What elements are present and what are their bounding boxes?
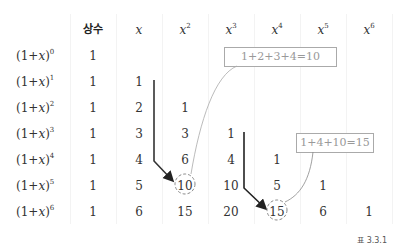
table-cell: 1 [70, 49, 116, 63]
table-caption: 표 3.3.1 [357, 234, 387, 245]
row-label: (1+x)5 [16, 179, 76, 193]
table-cell: 1 [70, 75, 116, 89]
column-header: x5 [300, 23, 346, 37]
table-cell: 3 [116, 127, 162, 141]
table-cell: 5 [254, 179, 300, 193]
column-header: x [116, 23, 162, 37]
row-label: (1+x)2 [16, 101, 76, 115]
table-cell: 1 [300, 179, 346, 193]
column-divider [392, 14, 393, 224]
column-header: x2 [162, 23, 208, 37]
table-cell: 5 [116, 179, 162, 193]
table-cell: 4 [208, 153, 254, 167]
row-label: (1+x)4 [16, 153, 76, 167]
column-header: x4 [254, 23, 300, 37]
table-cell: 20 [208, 205, 254, 219]
table-cell: 1 [254, 153, 300, 167]
table-cell: 10 [208, 179, 254, 193]
table-cell: 1 [208, 127, 254, 141]
table-cell: 1 [70, 153, 116, 167]
row-label: (1+x)3 [16, 127, 76, 141]
table-cell: 6 [300, 205, 346, 219]
table-cell: 2 [116, 101, 162, 115]
table-cell: 1 [346, 205, 392, 219]
table-cell: 10 [162, 179, 208, 193]
row-label: (1+x)6 [16, 205, 76, 219]
column-header: 상수 [70, 23, 116, 37]
column-divider [346, 14, 347, 224]
row-label: (1+x)0 [16, 49, 76, 63]
table-cell: 6 [116, 205, 162, 219]
sum-annotation-box-1: 1+2+3+4=10 [224, 47, 337, 67]
table-cell: 15 [162, 205, 208, 219]
table-cell: 1 [70, 179, 116, 193]
table-cell: 1 [70, 127, 116, 141]
table-cell: 1 [70, 101, 116, 115]
column-header: x6 [346, 23, 392, 37]
table-cell: 1 [162, 101, 208, 115]
table-cell: 6 [162, 153, 208, 167]
table-cell: 1 [116, 75, 162, 89]
table-cell: 3 [162, 127, 208, 141]
sum-annotation-box-2: 1+4+10=15 [296, 133, 374, 153]
table-cell: 15 [254, 205, 300, 219]
table-cell: 1 [70, 205, 116, 219]
table-cell: 4 [116, 153, 162, 167]
row-label: (1+x)1 [16, 75, 76, 89]
column-header: x3 [208, 23, 254, 37]
